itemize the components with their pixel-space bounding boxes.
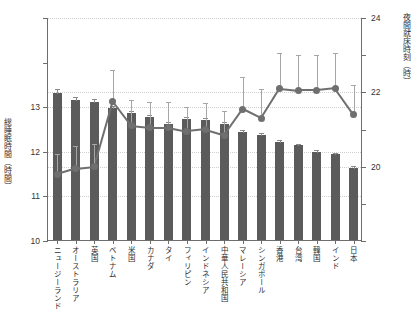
y-tick-right — [361, 204, 366, 205]
x-axis-label: 韓国 — [312, 246, 320, 262]
line-error-bar-cap — [240, 77, 245, 78]
line-marker — [146, 124, 153, 131]
line-error-bar — [113, 70, 114, 102]
x-axis-label: インドネシア — [200, 246, 208, 294]
x-axis-label: 香港 — [275, 246, 283, 262]
line-error-bar-cap — [92, 144, 97, 145]
line-series — [48, 18, 361, 240]
line-error-bar — [317, 55, 318, 90]
y-tick-right — [361, 18, 366, 19]
line-marker — [295, 87, 302, 94]
line-marker — [183, 128, 190, 135]
line-marker — [350, 111, 357, 118]
y-tick-right — [361, 92, 366, 93]
x-axis-label: 英国 — [89, 246, 97, 262]
y-tick-label-left: 13 — [20, 102, 40, 112]
x-tick — [261, 240, 262, 244]
line-marker — [72, 165, 79, 172]
x-axis-label: 中華人民共和国 — [219, 246, 227, 302]
x-axis-label: インド — [330, 246, 338, 270]
x-axis-label: カナダ — [145, 246, 153, 270]
line-error-bar-cap — [73, 146, 78, 147]
x-tick — [335, 240, 336, 244]
x-axis-label: ベトナム — [108, 246, 116, 278]
x-tick — [298, 240, 299, 244]
x-axis-label: マレーシア — [237, 246, 245, 286]
line-error-bar — [280, 53, 281, 88]
y-tick-right — [361, 55, 366, 56]
x-tick — [131, 240, 132, 244]
x-axis-label: ニュージーランド — [52, 246, 60, 310]
line-error-bar-cap — [277, 53, 282, 54]
line-segment — [93, 101, 113, 167]
line-error-bar-cap — [296, 55, 301, 56]
line-error-bar-cap — [351, 85, 356, 86]
line-error-bar-cap — [55, 154, 60, 155]
line-error-bar-cap — [129, 100, 134, 101]
line-marker — [276, 85, 283, 92]
line-error-bar — [261, 89, 262, 119]
x-tick — [243, 240, 244, 244]
line-error-bar-cap — [259, 89, 264, 90]
y-tick-left — [43, 241, 48, 242]
line-marker — [54, 171, 61, 178]
line-error-bar-cap — [147, 102, 152, 103]
line-error-bar-cap — [333, 53, 338, 54]
y-axis-title-left: 総睡眠時間（時間） — [2, 118, 11, 190]
x-tick — [206, 240, 207, 244]
line-marker — [239, 106, 246, 113]
line-marker — [332, 85, 339, 92]
x-tick — [113, 240, 114, 244]
y-tick-label-left: 11 — [20, 191, 40, 201]
x-tick — [168, 240, 169, 244]
line-error-bar-cap — [203, 103, 208, 104]
y-axis-title-right: 夜間就床時刻（時） — [401, 13, 410, 85]
x-axis-label: 米国 — [126, 246, 134, 262]
line-marker — [128, 122, 135, 129]
y-tick-right — [361, 241, 366, 242]
x-axis-label: シンガポール — [256, 246, 264, 294]
y-tick-label-left: 12 — [20, 147, 40, 157]
line-error-bar-cap — [110, 70, 115, 71]
line-error-bar-cap — [222, 111, 227, 112]
line-error-bar-cap — [184, 107, 189, 108]
line-marker — [91, 163, 98, 170]
line-error-bar — [243, 77, 244, 109]
y-tick-label-right: 24 — [371, 13, 380, 23]
x-tick — [317, 240, 318, 244]
x-tick — [150, 240, 151, 244]
x-tick — [280, 240, 281, 244]
x-axis-label: 台湾 — [293, 246, 301, 262]
line-segment — [260, 88, 280, 119]
x-axis-label: 日本 — [349, 246, 357, 262]
line-error-bar — [335, 53, 336, 88]
y-tick-right — [361, 130, 366, 131]
line-error-bar-cap — [314, 55, 319, 56]
y-tick-label-right: 22 — [371, 87, 380, 97]
line-marker — [258, 115, 265, 122]
line-marker — [221, 132, 228, 139]
x-tick — [76, 240, 77, 244]
x-axis-labels: ニュージーランドオーストラリア英国ベトナム米国カナダタイフィリピンインドネシア中… — [47, 246, 362, 304]
x-tick — [57, 240, 58, 244]
line-marker — [202, 126, 209, 133]
x-tick — [354, 240, 355, 244]
y-tick-label-left: 10 — [20, 236, 40, 246]
x-tick — [94, 240, 95, 244]
x-tick — [187, 240, 188, 244]
line-error-bar — [298, 55, 299, 90]
line-marker — [165, 124, 172, 131]
line-marker — [313, 87, 320, 94]
y-tick-right — [361, 167, 366, 168]
y-tick-label-right: 20 — [371, 162, 380, 172]
x-axis-label: タイ — [163, 246, 171, 262]
x-tick — [224, 240, 225, 244]
x-axis-label: オーストラリア — [71, 246, 79, 302]
line-error-bar-cap — [166, 102, 171, 103]
x-axis-label: フィリピン — [182, 246, 190, 286]
plot-area: 10111213202224 — [47, 18, 362, 241]
